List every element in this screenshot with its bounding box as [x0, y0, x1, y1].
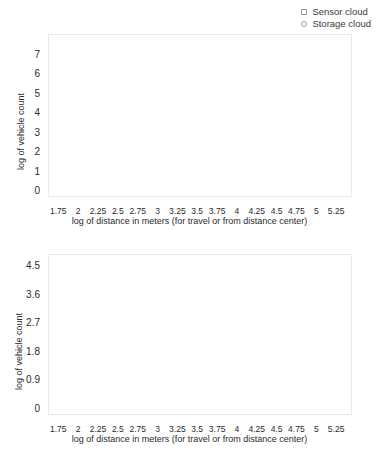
- x-tick-label: 5: [314, 206, 319, 216]
- y-tick-label: 0: [0, 185, 40, 196]
- x-tick-label: 2: [76, 424, 81, 434]
- legend-label-storage-cloud: Storage cloud: [312, 18, 371, 30]
- x-tick-label: 3.5: [191, 424, 203, 434]
- x-tick-label: 1.75: [50, 206, 67, 216]
- plot-area-top: [48, 34, 352, 197]
- x-tick-label: 3.75: [209, 206, 226, 216]
- y-tick-label: 4.5: [0, 260, 40, 271]
- y-tick-label: 3.6: [0, 288, 40, 299]
- x-tick-label: 4.25: [249, 424, 266, 434]
- legend-entry-storage-cloud: Storage cloud: [301, 18, 371, 30]
- x-tick-label: 3.5: [191, 206, 203, 216]
- x-tick-label: 5.25: [328, 424, 345, 434]
- x-tick-label: 4.25: [249, 206, 266, 216]
- x-tick-label: 2.5: [112, 424, 124, 434]
- chart-figure: Sensor cloud Storage cloud 01234567 1.75…: [0, 0, 379, 461]
- x-tick-label: 2: [76, 206, 81, 216]
- legend-label-sensor-cloud: Sensor cloud: [312, 6, 367, 18]
- x-tick-label: 3.25: [169, 206, 186, 216]
- x-tick-label: 4.5: [271, 206, 283, 216]
- x-tick-label: 4.5: [271, 424, 283, 434]
- legend-entry-sensor-cloud: Sensor cloud: [301, 6, 371, 18]
- x-tick-label: 2.25: [90, 206, 107, 216]
- y-axis-label-top: log of vehicle count: [16, 93, 26, 170]
- x-tick-label: 3.75: [209, 424, 226, 434]
- x-tick-label: 5: [314, 424, 319, 434]
- x-axis-label-top: log of distance in meters (for travel or…: [0, 216, 379, 226]
- x-tick-label: 4.75: [288, 206, 305, 216]
- x-tick-label: 3: [155, 424, 160, 434]
- chart-panel-top: Sensor cloud Storage cloud 01234567 1.75…: [0, 0, 379, 232]
- x-tick-label: 4.75: [288, 424, 305, 434]
- x-tick-label: 4: [235, 424, 240, 434]
- y-tick-label: 6: [0, 68, 40, 79]
- chart-panel-bottom: 00.91.82.73.64.5 1.7522.252.52.7533.253.…: [0, 232, 379, 461]
- x-tick-label: 5.25: [328, 206, 345, 216]
- x-tick-label: 4: [235, 206, 240, 216]
- square-marker-icon: [301, 9, 307, 15]
- x-tick-label: 2.25: [90, 424, 107, 434]
- plot-area-bottom: [48, 254, 352, 415]
- chart-legend: Sensor cloud Storage cloud: [301, 6, 371, 30]
- x-tick-label: 2.5: [112, 206, 124, 216]
- x-tick-label: 2.75: [129, 424, 146, 434]
- x-axis-label-bottom: log of distance in meters (for travel or…: [0, 434, 379, 444]
- x-tick-label: 3: [155, 206, 160, 216]
- y-axis-label-bottom: log of vehicle count: [14, 313, 24, 390]
- y-tick-label: 0: [0, 403, 40, 414]
- x-tick-label: 2.75: [129, 206, 146, 216]
- x-tick-label: 3.25: [169, 424, 186, 434]
- y-tick-label: 7: [0, 48, 40, 59]
- circle-marker-icon: [301, 21, 307, 27]
- x-tick-label: 1.75: [50, 424, 67, 434]
